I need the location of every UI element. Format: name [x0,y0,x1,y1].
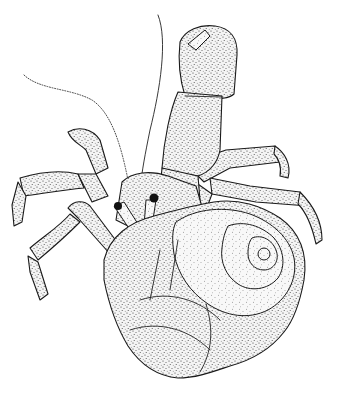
left-antenna [24,75,128,180]
left-eye [114,202,122,210]
illustration-svg [0,0,337,395]
right-antenna [140,15,163,190]
spiral-shell [104,201,305,378]
right-eye [150,194,159,203]
hermit-crab-illustration [0,0,337,395]
